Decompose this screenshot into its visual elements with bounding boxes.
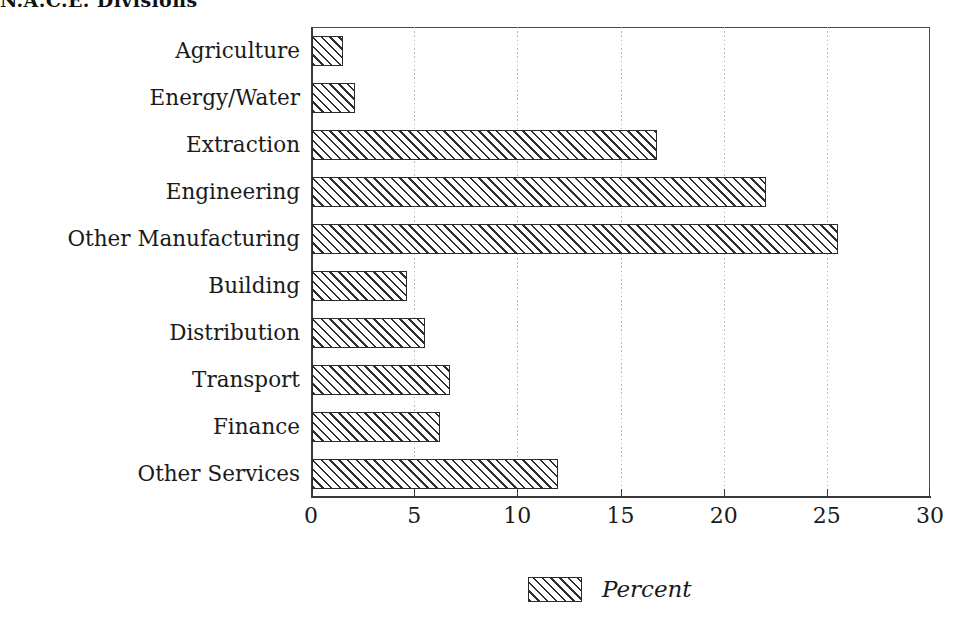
y-axis-label-other-services: Other Services bbox=[5, 463, 300, 485]
plot-border-right bbox=[929, 27, 930, 497]
gridline-x-20 bbox=[724, 27, 725, 497]
chart-legend: Percent bbox=[528, 576, 692, 602]
x-axis-tick-label-5: 5 bbox=[407, 503, 421, 528]
x-axis-tick-15 bbox=[621, 489, 622, 498]
legend-label-percent: Percent bbox=[602, 576, 692, 602]
bar-finance bbox=[312, 412, 440, 442]
gridline-x-25 bbox=[827, 27, 828, 497]
bar-other-services bbox=[312, 459, 558, 489]
x-axis-tick-label-20: 20 bbox=[710, 503, 738, 528]
y-axis-label-transport: Transport bbox=[5, 369, 300, 391]
bar-energy-water bbox=[312, 83, 355, 113]
x-axis-tick-label-30: 30 bbox=[916, 503, 944, 528]
y-axis-label-finance: Finance bbox=[5, 416, 300, 438]
plot-area bbox=[311, 27, 930, 497]
bar-distribution bbox=[312, 318, 425, 348]
x-axis-tick-label-10: 10 bbox=[503, 503, 531, 528]
x-axis-tick-0 bbox=[311, 489, 312, 498]
x-axis-tick-10 bbox=[517, 489, 518, 498]
y-axis-label-extraction: Extraction bbox=[5, 134, 300, 156]
bar-transport bbox=[312, 365, 450, 395]
x-axis-tick-label-25: 25 bbox=[813, 503, 841, 528]
gridline-x-10 bbox=[517, 27, 518, 497]
legend-swatch-percent bbox=[528, 577, 582, 602]
y-axis-label-distribution: Distribution bbox=[5, 322, 300, 344]
y-axis-label-engineering: Engineering bbox=[5, 181, 300, 203]
x-axis-tick-label-0: 0 bbox=[304, 503, 318, 528]
y-axis-label-building: Building bbox=[5, 275, 300, 297]
y-axis-category-labels: AgricultureEnergy/WaterExtractionEnginee… bbox=[0, 0, 300, 617]
x-axis-tick-20 bbox=[724, 489, 725, 498]
x-axis-tick-5 bbox=[414, 489, 415, 498]
x-axis-tick-30 bbox=[929, 489, 930, 498]
bar-engineering bbox=[312, 177, 766, 207]
bar-other-manufacturing bbox=[312, 224, 838, 254]
x-axis-tick-25 bbox=[827, 489, 828, 498]
y-axis-label-energy-water: Energy/Water bbox=[5, 87, 300, 109]
bar-building bbox=[312, 271, 407, 301]
y-axis-label-agriculture: Agriculture bbox=[5, 40, 300, 62]
bar-extraction bbox=[312, 130, 657, 160]
gridline-x-15 bbox=[621, 27, 622, 497]
x-axis-tick-label-15: 15 bbox=[607, 503, 635, 528]
bar-agriculture bbox=[312, 36, 343, 66]
y-axis-label-other-manufacturing: Other Manufacturing bbox=[5, 228, 300, 250]
